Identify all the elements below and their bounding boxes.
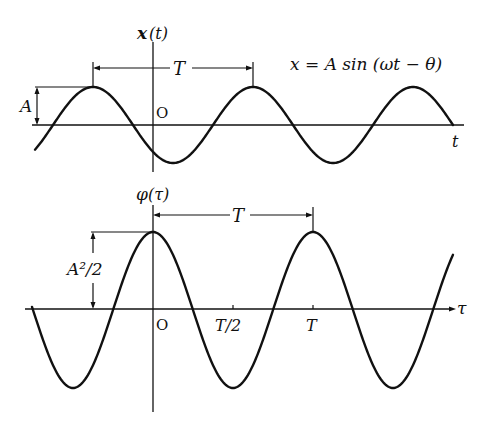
y-axis-label-arg: (t) <box>149 24 168 43</box>
x-axis-label: t <box>452 132 459 151</box>
arrow-down-icon <box>35 118 40 125</box>
origin-label: O <box>156 316 168 334</box>
arrow-left-icon <box>93 66 100 71</box>
top-plot: A T x (t) O t x = A sin (ωt − θ) <box>18 23 464 172</box>
arrow-up-icon <box>91 232 96 239</box>
period-label: T <box>232 205 246 226</box>
amplitude-label: A²/2 <box>65 259 103 279</box>
origin-label: O <box>156 104 168 122</box>
y-axis-label-arg: (τ) <box>148 185 169 204</box>
tick-label-half-period: T/2 <box>215 316 241 335</box>
equation-label: x = A sin (ωt − θ) <box>290 54 442 74</box>
arrow-up-icon <box>35 87 40 94</box>
arrow-right-icon <box>246 66 253 71</box>
arrow-left-icon <box>153 213 160 218</box>
x-axis-label: τ <box>457 298 467 318</box>
amplitude-label: A <box>18 96 32 116</box>
figure: A T x (t) O t x = A sin (ωt − θ) A²/2 <box>0 0 481 434</box>
arrow-right-icon <box>306 213 313 218</box>
tick-label-period: T <box>306 316 318 335</box>
period-label: T <box>173 58 187 79</box>
arrow-down-icon <box>91 302 96 309</box>
axis-arrow-icon <box>449 307 456 312</box>
y-axis-label: x <box>136 23 148 43</box>
phi-tau-curve <box>32 232 453 388</box>
bottom-plot: A²/2 T φ (τ) O T/2 T τ <box>25 184 467 412</box>
y-axis-label: φ <box>136 184 148 204</box>
